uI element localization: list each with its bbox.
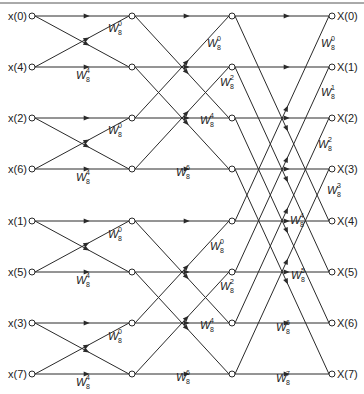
node-circle [29, 371, 35, 377]
svg-text:2: 2 [328, 136, 332, 143]
arrowhead-icon [184, 219, 190, 224]
node-circle [329, 218, 335, 224]
twiddle-factor-label: W08 [108, 328, 122, 344]
node-circle [329, 166, 335, 172]
node-circle [129, 64, 135, 70]
svg-text:2: 2 [230, 278, 234, 285]
node-circle [129, 115, 135, 121]
svg-text:0: 0 [331, 35, 335, 42]
node-circle [129, 320, 135, 326]
twiddle-factor-label: W08 [210, 238, 224, 254]
input-label: x(4) [8, 61, 27, 73]
svg-text:6: 6 [286, 319, 290, 326]
node-circle [229, 218, 235, 224]
arrowhead-icon [284, 219, 290, 224]
node-circle [29, 115, 35, 121]
svg-text:0: 0 [118, 20, 122, 27]
output-label: X(1) [337, 61, 358, 73]
node-circle [229, 320, 235, 326]
svg-text:8: 8 [230, 287, 234, 294]
svg-text:8: 8 [210, 326, 214, 333]
svg-text:4: 4 [86, 272, 90, 279]
svg-text:8: 8 [331, 93, 335, 100]
twiddle-factor-label: W08 [108, 20, 122, 36]
svg-text:8: 8 [286, 328, 290, 335]
svg-text:4: 4 [210, 112, 214, 119]
node-circle [29, 218, 35, 224]
svg-text:0: 0 [118, 226, 122, 233]
output-label: X(5) [337, 266, 358, 278]
node-circle [129, 269, 135, 275]
svg-text:8: 8 [220, 247, 224, 254]
twiddle-factor-label: W48 [76, 272, 90, 288]
arrowhead-icon [84, 14, 90, 19]
node-circle [229, 115, 235, 121]
node-circle [329, 371, 335, 377]
arrowhead-icon [84, 321, 90, 326]
svg-text:0: 0 [118, 122, 122, 129]
svg-text:4: 4 [210, 317, 214, 324]
svg-text:2: 2 [230, 74, 234, 81]
svg-text:3: 3 [337, 182, 341, 189]
svg-text:8: 8 [331, 44, 335, 51]
twiddle-factor-label: W48 [76, 169, 90, 185]
svg-text:6: 6 [186, 369, 190, 376]
node-circle [329, 115, 335, 121]
node-circle [29, 320, 35, 326]
arrowhead-icon [184, 14, 190, 19]
svg-text:0: 0 [118, 328, 122, 335]
svg-text:8: 8 [186, 378, 190, 385]
svg-text:8: 8 [118, 235, 122, 242]
twiddle-factor-label: W48 [290, 212, 304, 228]
twiddle-factor-label: W68 [176, 164, 190, 180]
node-circle [329, 64, 335, 70]
svg-text:4: 4 [86, 374, 90, 381]
input-label: x(6) [8, 163, 27, 175]
input-label: x(7) [8, 368, 27, 380]
input-label: x(0) [8, 10, 27, 22]
arrowhead-icon [284, 65, 290, 70]
node-circle [229, 166, 235, 172]
node-circle [329, 320, 335, 326]
svg-text:6: 6 [186, 164, 190, 171]
twiddle-factor-label: W48 [76, 374, 90, 390]
node-circle [329, 13, 335, 19]
input-label: x(1) [8, 215, 27, 227]
twiddle-factor-label: W58 [291, 267, 305, 283]
twiddle-factor-label: W48 [76, 67, 90, 83]
svg-text:8: 8 [300, 221, 304, 228]
svg-text:8: 8 [217, 44, 221, 51]
output-label: X(2) [337, 112, 358, 124]
arrowhead-icon [284, 116, 290, 121]
svg-text:4: 4 [86, 169, 90, 176]
arrowhead-icon [284, 14, 290, 19]
twiddle-factor-label: W08 [108, 226, 122, 242]
svg-text:8: 8 [337, 191, 341, 198]
svg-text:8: 8 [86, 76, 90, 83]
node-circle [29, 13, 35, 19]
input-label: x(2) [8, 112, 27, 124]
output-label: X(3) [337, 163, 358, 175]
output-label: X(6) [337, 317, 358, 329]
node-circle [229, 269, 235, 275]
arrowhead-icon [284, 167, 290, 172]
svg-text:8: 8 [118, 29, 122, 36]
node-circle [129, 371, 135, 377]
output-label: X(4) [337, 215, 358, 227]
svg-text:8: 8 [301, 276, 305, 283]
node-circle [129, 166, 135, 172]
svg-text:8: 8 [186, 173, 190, 180]
twiddle-factor-label: W08 [321, 35, 335, 51]
twiddle-factor-label: W68 [276, 319, 290, 335]
arrowhead-icon [84, 116, 90, 121]
svg-text:8: 8 [118, 337, 122, 344]
twiddle-factor-label: W38 [327, 182, 341, 198]
svg-text:1: 1 [331, 84, 335, 91]
twiddle-factor-label: W48 [200, 112, 214, 128]
svg-text:8: 8 [118, 131, 122, 138]
svg-text:0: 0 [217, 35, 221, 42]
twiddle-factor-label: W48 [200, 317, 214, 333]
svg-text:8: 8 [86, 383, 90, 390]
svg-text:7: 7 [286, 370, 290, 377]
input-label: x(3) [8, 317, 27, 329]
